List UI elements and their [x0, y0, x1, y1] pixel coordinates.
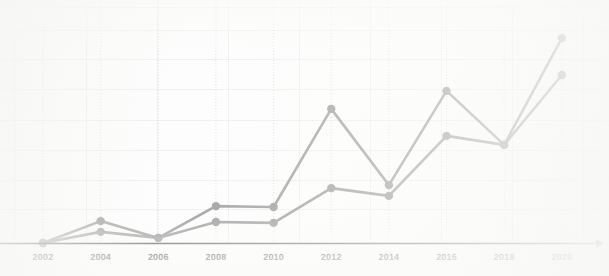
- data-point-series-2-2020: [558, 71, 566, 79]
- x-tick-label-2020: 2020: [551, 252, 572, 262]
- x-tick-label-2018: 2018: [494, 252, 515, 262]
- data-point-series-1-2012: [327, 105, 335, 113]
- series-markers: [39, 34, 566, 247]
- data-point-series-2-2008: [212, 218, 220, 226]
- x-tick-label-2012: 2012: [321, 252, 342, 262]
- data-point-series-1-2016: [442, 87, 450, 95]
- data-point-series-2-2012: [327, 184, 335, 192]
- data-point-series-2-2010: [269, 219, 277, 227]
- data-point-series-1-2020: [558, 34, 566, 42]
- x-tick-label-2004: 2004: [90, 252, 111, 262]
- data-point-series-2-2018: [500, 141, 508, 149]
- data-point-series-1-2008: [212, 202, 220, 210]
- x-axis: [0, 239, 604, 248]
- data-point-series-2-2014: [385, 192, 393, 200]
- x-tick-label-2014: 2014: [378, 252, 399, 262]
- data-point-series-1-2014: [385, 181, 393, 189]
- x-tick-label-2006: 2006: [148, 252, 169, 262]
- horizontal-gridlines: [0, 8, 609, 210]
- data-point-series-2-2006: [154, 234, 162, 242]
- line-chart: 2002200420062008201020122014201620182020: [0, 0, 609, 276]
- x-tick-label-2002: 2002: [33, 252, 54, 262]
- x-tick-label-2010: 2010: [263, 252, 284, 262]
- chart-plot-area: [0, 0, 609, 276]
- data-point-series-1-2010: [269, 203, 277, 211]
- series-lines: [43, 38, 562, 243]
- x-tick-label-2016: 2016: [436, 252, 457, 262]
- data-point-series-1-2004: [96, 217, 104, 225]
- data-point-series-2-2004: [96, 228, 104, 236]
- x-tick-label-2008: 2008: [206, 252, 227, 262]
- arrow-right-icon: [596, 239, 604, 248]
- data-point-series-2-2016: [442, 132, 450, 140]
